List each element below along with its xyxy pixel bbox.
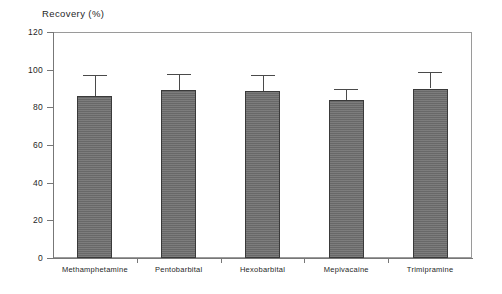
recovery-bar-chart: Recovery (%) 020406080100120 Methampheta… bbox=[0, 0, 502, 294]
error-bar-cap bbox=[167, 74, 191, 75]
y-axis-label: 100 bbox=[28, 65, 43, 75]
bar bbox=[161, 90, 196, 258]
error-bar-stem bbox=[430, 72, 431, 88]
y-axis-tick bbox=[47, 70, 54, 71]
error-bar-cap bbox=[83, 75, 107, 76]
y-axis-tick bbox=[47, 32, 54, 33]
y-axis-label: 80 bbox=[33, 102, 43, 112]
y-axis-label: 0 bbox=[38, 253, 43, 263]
error-bar-cap bbox=[334, 89, 358, 90]
error-bar-cap bbox=[418, 72, 442, 73]
x-axis-tick bbox=[388, 258, 389, 263]
x-axis-tick bbox=[137, 258, 138, 263]
bar bbox=[413, 89, 448, 259]
error-bar-stem bbox=[179, 74, 180, 90]
y-axis-label: 60 bbox=[33, 140, 43, 150]
x-axis-line bbox=[53, 258, 473, 259]
y-axis-label: 40 bbox=[33, 178, 43, 188]
error-bar-stem bbox=[95, 75, 96, 96]
error-bar-stem bbox=[263, 75, 264, 91]
y-axis-tick bbox=[47, 145, 54, 146]
y-axis-tick bbox=[47, 107, 54, 108]
y-axis-tick bbox=[47, 220, 54, 221]
x-axis-category-label: Pentobarbital bbox=[155, 265, 202, 274]
x-axis-category-label: Trimipramine bbox=[407, 265, 453, 274]
bar bbox=[245, 91, 280, 258]
x-axis-tick bbox=[304, 258, 305, 263]
chart-title: Recovery (%) bbox=[42, 8, 104, 19]
error-bar-cap bbox=[251, 75, 275, 76]
error-bar-stem bbox=[346, 89, 347, 100]
x-axis-category-label: Hexobarbital bbox=[240, 265, 285, 274]
bar bbox=[329, 100, 364, 258]
y-axis-tick bbox=[47, 258, 54, 259]
x-axis-tick bbox=[221, 258, 222, 263]
y-axis-tick bbox=[47, 183, 54, 184]
y-axis-label: 120 bbox=[28, 27, 43, 37]
x-axis-category-label: Methamphetamine bbox=[62, 265, 128, 274]
x-axis-category-label: Mepivacaine bbox=[324, 265, 369, 274]
y-axis-label: 20 bbox=[33, 215, 43, 225]
bar bbox=[77, 96, 112, 258]
